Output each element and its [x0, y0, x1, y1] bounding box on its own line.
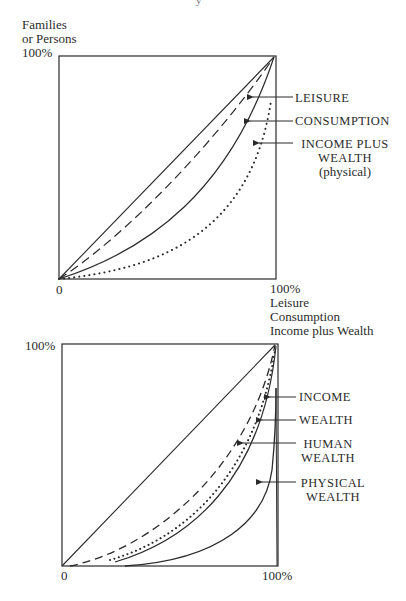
bottom-wealth-curve	[115, 346, 276, 562]
bottom-right-vertical-line	[276, 388, 277, 566]
top-equality-line	[59, 57, 274, 279]
top-income-plus-wealth-curve	[59, 101, 271, 279]
bottom-chart	[62, 344, 296, 566]
charts-canvas	[0, 0, 406, 601]
bottom-human-wealth-curve	[110, 350, 275, 560]
top-chart	[59, 56, 293, 279]
bottom-income-curve	[70, 345, 275, 566]
